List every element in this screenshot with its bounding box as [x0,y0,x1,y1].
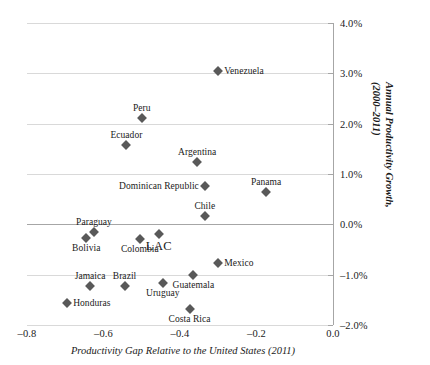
gridline [27,275,333,276]
x-axis-tick-label: –0.8 [18,328,37,339]
data-point-label: Ecuador [110,130,142,140]
y-axis-tick [328,23,333,24]
data-point-label: Mexico [224,258,253,268]
y-axis-tick-label: 4.0% [340,18,362,29]
data-point-label: Panama [251,177,281,187]
zero-gridline [27,224,333,225]
x-axis-tick-label: –0.4 [171,328,190,339]
x-axis-tick-label: –0.2 [247,328,266,339]
data-point-label: Dominican Republic [119,181,199,191]
data-point-label: Argentina [178,147,216,157]
gridline [27,174,333,175]
gridline [27,124,333,125]
y-axis-tick [328,275,333,276]
x-axis-tick-label: –0.6 [94,328,113,339]
data-point-label: Honduras [73,298,110,308]
data-point-label: Brazil [113,271,137,281]
data-point-label: Bolivia [72,243,100,253]
data-point-label: LAC [146,239,172,254]
y-axis-tick-label: 3.0% [340,68,362,79]
y-axis-tick-label: –1.0% [340,269,368,280]
y-axis-title-line2: (2000–2011) [370,82,383,282]
y-axis-tick [328,224,333,225]
y-axis-tick-label: 2.0% [340,118,362,129]
y-axis-line [333,23,334,325]
y-axis-tick [328,174,333,175]
gridline [27,23,333,24]
y-axis-tick-label: 0.0% [340,219,362,230]
data-point-label: Paraguay [76,217,112,227]
y-axis-tick [328,73,333,74]
y-axis-tick [328,325,333,326]
y-axis-tick [328,124,333,125]
y-axis-tick-label: 1.0% [340,169,362,180]
gridline [27,73,333,74]
data-point-label: Venezuela [224,66,263,76]
data-point-label: Costa Rica [169,314,211,324]
y-axis-title-line1: Annual Productivity Growth, [384,82,395,208]
data-point-label: Jamaica [75,271,106,281]
y-axis-tick-label: –2.0% [340,320,368,331]
x-axis-title: Productivity Gap Relative to the United … [0,345,366,356]
x-axis-tick-label: 0.0 [326,328,339,339]
data-point-label: Chile [194,201,215,211]
data-point-label: Peru [133,103,151,113]
x-axis-line [27,325,333,326]
scatter-chart: Annual Productivity Growth, (2000–2011) … [0,0,430,365]
data-point-label: Uruguay [146,288,180,298]
y-axis-title: Annual Productivity Growth, (2000–2011) [370,82,396,282]
